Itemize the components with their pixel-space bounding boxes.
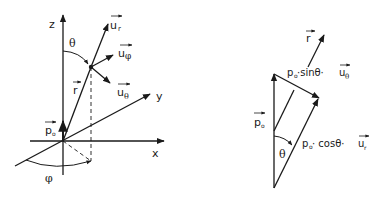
svg-text:·sinθ·: ·sinθ· <box>297 67 324 78</box>
svg-text:r: r <box>118 25 121 33</box>
r-vector <box>63 67 91 141</box>
r-direction-label: r <box>306 31 315 45</box>
theta-arc <box>63 51 88 64</box>
svg-text:o: o <box>52 130 56 137</box>
momentum-decomposition-diagram: r p o p o ·sinθ· u θ θ p o <box>254 31 369 188</box>
u-theta-vector <box>91 67 110 83</box>
svg-text:θ: θ <box>124 92 129 101</box>
svg-text:u: u <box>117 86 124 99</box>
p0-label: p o <box>45 122 56 137</box>
svg-text:p: p <box>254 116 261 129</box>
y-axis-label: y <box>156 90 163 103</box>
svg-text:r: r <box>306 32 311 45</box>
p0-label: p o <box>254 113 265 129</box>
theta-arc <box>274 136 292 145</box>
sin-component-label: p o ·sinθ· u θ <box>287 65 350 81</box>
diagram-canvas: z x y r u r u φ <box>0 0 379 199</box>
theta-label: θ <box>279 148 286 161</box>
u-phi-vector <box>91 55 113 67</box>
svg-text:u: u <box>110 19 117 32</box>
cos-component-label: p o · cosθ· u r <box>302 136 369 151</box>
svg-text:r: r <box>73 84 78 97</box>
phi-arc <box>26 160 91 166</box>
svg-text:r: r <box>364 144 367 151</box>
spherical-coordinates-diagram: z x y r u r u φ <box>15 15 164 185</box>
svg-text:p: p <box>302 138 308 149</box>
u-r-vector <box>91 24 108 67</box>
svg-text:· cosθ·: · cosθ· <box>312 138 344 149</box>
phi-label: φ <box>45 172 53 185</box>
svg-text:p: p <box>287 67 293 78</box>
projection-xy <box>63 141 91 161</box>
z-axis-label: z <box>49 18 55 31</box>
theta-label: θ <box>69 37 76 50</box>
svg-text:p: p <box>45 124 52 137</box>
u-phi-label: u φ <box>118 45 132 61</box>
parallel-line <box>274 90 294 131</box>
u-theta-label: u θ <box>117 84 130 101</box>
r-vector-label: r <box>73 82 81 97</box>
u-r-label: u r <box>110 16 122 33</box>
svg-text:o: o <box>261 122 265 129</box>
svg-text:u: u <box>118 47 125 60</box>
x-axis-label: x <box>152 147 159 160</box>
svg-text:θ: θ <box>345 73 349 81</box>
svg-text:φ: φ <box>125 51 131 61</box>
